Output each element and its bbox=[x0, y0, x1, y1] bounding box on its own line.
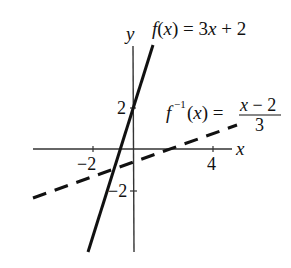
svg-text:x − 2: x − 2 bbox=[239, 95, 276, 115]
svg-text:f: f bbox=[166, 102, 174, 123]
svg-text:−1: −1 bbox=[174, 98, 186, 110]
svg-text:3: 3 bbox=[255, 115, 264, 135]
tick-label-y-neg2: −2 bbox=[108, 181, 127, 201]
tick-label-x-4: 4 bbox=[207, 154, 216, 174]
label-f: f(x) = 3x + 2 bbox=[152, 18, 246, 40]
label-f-inverse: f −1 (x) = x − 2 3 bbox=[166, 95, 281, 135]
tick-label-x-neg2: −2 bbox=[77, 154, 96, 174]
x-axis-label: x bbox=[235, 138, 245, 159]
tick-label-y-2: 2 bbox=[117, 98, 126, 118]
graph-canvas: y x 2 −2 −2 4 f(x) = 3x + 2 f −1 (x) = x… bbox=[0, 0, 291, 268]
svg-text:(x) =: (x) = bbox=[187, 102, 224, 124]
y-axis-label: y bbox=[124, 23, 135, 44]
y-axis bbox=[133, 46, 134, 252]
